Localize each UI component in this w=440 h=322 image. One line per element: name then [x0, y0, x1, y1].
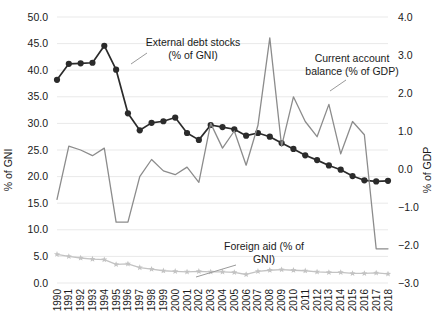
data-point — [243, 271, 249, 277]
data-point — [326, 162, 332, 168]
data-point — [349, 173, 355, 179]
data-point — [385, 271, 391, 277]
y-axis-right-title: % of GDP — [421, 147, 433, 194]
x-axis-tick-label: 2017 — [371, 289, 382, 312]
annotation-foreign-aid-line1: Foreign aid (% of — [224, 240, 304, 252]
x-axis-tick-label: 2010 — [288, 289, 299, 312]
y-axis-left-title: % of GNI — [2, 149, 14, 192]
data-point — [290, 146, 296, 152]
annotation-current-account: Current account balance (% of GDP) — [305, 52, 398, 77]
x-axis-tick-label: 2018 — [383, 289, 394, 312]
data-point — [267, 267, 273, 273]
annotation-current-account-line1: Current account — [315, 52, 390, 64]
data-point — [196, 268, 202, 274]
x-axis-tick-label: 2003 — [205, 289, 216, 312]
x-axis-tick-label: 1997 — [134, 289, 145, 312]
x-axis-tick-label: 1993 — [87, 289, 98, 312]
y-axis-left-tick-label: 50.0 — [28, 11, 49, 23]
data-point — [290, 267, 296, 273]
x-axis-tick-label: 2000 — [170, 289, 181, 312]
data-point — [78, 60, 84, 66]
data-point — [302, 268, 308, 274]
data-point — [66, 61, 72, 67]
data-point — [267, 134, 273, 140]
data-point — [219, 124, 225, 130]
x-axis-tick-label: 2012 — [312, 289, 323, 312]
x-axis-tick-label: 2005 — [229, 289, 240, 312]
x-axis-tick-label: 2013 — [323, 289, 334, 312]
y-axis-left-tick-label: 25.0 — [28, 144, 49, 156]
data-point — [338, 269, 344, 275]
data-point — [314, 269, 320, 275]
data-point — [137, 264, 143, 270]
y-axis-left-tick-label: 10.0 — [28, 223, 49, 235]
x-axis-tick-label: 2015 — [347, 289, 358, 312]
data-point — [373, 178, 379, 184]
annotation-current-account-line2: balance (% of GDP) — [305, 65, 398, 77]
x-axis-tick-label: 2001 — [182, 289, 193, 312]
y-axis-right-tick-label: −3.0 — [398, 277, 419, 289]
y-axis-left-tick-labels: 0.05.010.015.020.025.030.035.040.045.050… — [28, 11, 49, 289]
data-point — [184, 269, 190, 275]
data-point — [361, 177, 367, 183]
y-axis-left-tick-label: 45.0 — [28, 37, 49, 49]
y-axis-left-tick-label: 0.0 — [33, 277, 48, 289]
annotation-external-debt-line2: (% of GNI) — [168, 49, 218, 61]
x-axis-tick-label: 2002 — [193, 289, 204, 312]
data-point — [361, 270, 367, 276]
data-point — [314, 157, 320, 163]
y-axis-right-tick-label: 2.0 — [398, 87, 413, 99]
data-point — [385, 178, 391, 184]
y-axis-left-tick-label: 15.0 — [28, 197, 49, 209]
x-axis-tick-label: 2009 — [276, 289, 287, 312]
data-point — [89, 60, 95, 66]
x-axis-tick-label: 2008 — [264, 289, 275, 312]
data-point — [78, 255, 84, 261]
y-axis-right-tick-label: −2.0 — [398, 239, 419, 251]
data-point — [326, 269, 332, 275]
x-axis-tick-label: 2016 — [359, 289, 370, 312]
data-point — [172, 114, 178, 120]
y-axis-right-tick-label: 4.0 — [398, 11, 413, 23]
x-axis-tick-label: 1998 — [146, 289, 157, 312]
y-axis-right-tick-label: 0.0 — [398, 163, 413, 175]
x-axis-tick-label: 2007 — [252, 289, 263, 312]
line-chart-svg: 0.05.010.015.020.025.030.035.040.045.050… — [0, 0, 440, 322]
data-point — [172, 268, 178, 274]
x-axis-tick-label: 1991 — [63, 289, 74, 312]
data-point — [66, 253, 72, 259]
data-point — [243, 133, 249, 139]
data-point — [148, 120, 154, 126]
annotation-foreign-aid-line2: GNI) — [253, 253, 275, 265]
data-point — [113, 67, 119, 73]
y-axis-right-tick-label: 3.0 — [398, 49, 413, 61]
y-axis-left-tick-label: 30.0 — [28, 117, 49, 129]
chart-container: 0.05.010.015.020.025.030.035.040.045.050… — [0, 0, 440, 322]
y-axis-right-tick-label: −1.0 — [398, 201, 419, 213]
y-axis-right-tick-label: 1.0 — [398, 125, 413, 137]
annotation-external-debt-line1: External debt stocks — [146, 36, 241, 48]
data-point — [137, 127, 143, 133]
data-point — [54, 77, 60, 83]
annotation-foreign-aid: Foreign aid (% of GNI) — [224, 240, 304, 265]
data-point — [279, 267, 285, 273]
annotation-external-debt: External debt stocks (% of GNI) — [146, 36, 241, 61]
data-point — [373, 270, 379, 276]
data-point — [101, 43, 107, 49]
leader-current-account — [330, 80, 346, 91]
data-point — [255, 268, 261, 274]
data-point — [113, 261, 119, 267]
x-axis-tick-label: 2014 — [335, 289, 346, 312]
data-point — [125, 110, 131, 116]
x-axis-tick-label: 1990 — [52, 289, 63, 312]
data-point — [184, 130, 190, 136]
x-axis-tick-label: 1999 — [158, 289, 169, 312]
data-point — [338, 167, 344, 173]
x-axis-tick-label: 1992 — [75, 289, 86, 312]
series-foreign-aid — [54, 251, 391, 277]
y-axis-left-tick-label: 20.0 — [28, 170, 49, 182]
x-axis-tick-label: 1995 — [111, 289, 122, 312]
leader-external-debt — [131, 53, 147, 64]
data-point — [101, 256, 107, 262]
y-axis-left-tick-label: 40.0 — [28, 64, 49, 76]
